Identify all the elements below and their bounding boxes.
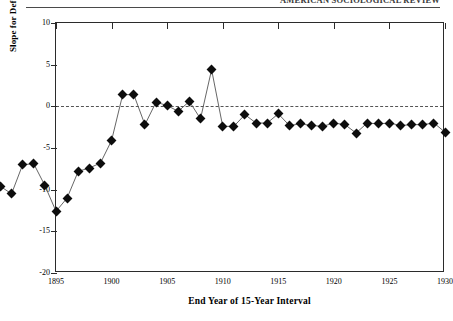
y-tick-label: -5 [24,143,50,152]
series-line-layer [56,23,445,273]
data-point-marker [342,122,347,127]
data-point-marker [431,121,436,126]
data-point-marker [254,121,259,126]
data-point-marker [409,122,414,127]
data-point-marker [354,131,359,136]
data-point-marker [376,121,381,126]
x-tick-label: 1930 [437,277,453,286]
data-point-marker [142,122,147,127]
data-point-marker [131,92,136,97]
data-point-marker [165,103,170,108]
y-tick-label: -15 [24,226,50,235]
data-point-marker [109,138,114,143]
y-axis-label: Slope for Deflated Price of Cotton [8,0,18,52]
data-point-marker [76,169,81,174]
data-point-marker [20,162,25,167]
data-point-marker [309,123,314,128]
data-point-marker [331,121,336,126]
data-point-marker [176,109,181,114]
y-tick-label: 0 [24,101,50,110]
x-tick-label: 1925 [381,277,397,286]
data-point-marker [54,209,59,214]
data-point-marker [187,99,192,104]
x-axis-label: End Year of 15-Year Interval [55,296,444,306]
plot-area: 1050-5-10-15-201895190019051910191519201… [55,22,444,272]
data-point-marker [9,191,14,196]
data-point-marker [220,124,225,129]
y-tick-label: 10 [24,18,50,27]
x-tick-label: 1900 [104,277,120,286]
data-point-marker [365,121,370,126]
data-point-marker [265,121,270,126]
data-point-marker [231,124,236,129]
y-tick-mark [51,273,57,274]
data-point-marker [65,196,70,201]
x-tick-label: 1905 [159,277,175,286]
data-point-marker [242,112,247,117]
data-point-marker [0,184,3,189]
data-point-marker [98,161,103,166]
x-tick-label: 1915 [270,277,286,286]
data-point-marker [320,124,325,129]
x-tick-label: 1895 [48,277,64,286]
data-point-marker [287,123,292,128]
data-point-marker [198,116,203,121]
data-point-marker [298,121,303,126]
data-point-marker [154,100,159,105]
data-point-marker [387,121,392,126]
data-point-marker [120,92,125,97]
y-tick-label: -20 [24,268,50,277]
data-point-marker [87,166,92,171]
data-point-marker [31,161,36,166]
data-point-marker [42,183,47,188]
series-polyline [0,70,445,212]
data-point-marker [398,123,403,128]
data-point-marker [276,111,281,116]
data-point-marker [443,130,448,135]
data-point-marker [420,122,425,127]
data-point-marker [209,67,214,72]
y-tick-label: 5 [24,60,50,69]
x-tick-label: 1910 [215,277,231,286]
x-tick-label: 1920 [326,277,342,286]
x-tick-mark [445,23,446,29]
